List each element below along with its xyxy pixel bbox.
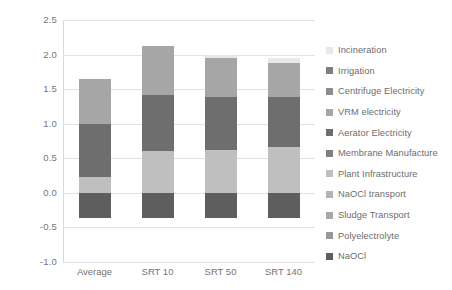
legend-swatch-icon [326,67,333,74]
y-tick-label: 0.0 [23,187,57,198]
stacked-bar[interactable] [142,20,174,262]
bar-group[interactable] [252,20,315,262]
legend-item[interactable]: VRM electricity [326,102,452,123]
legend-swatch-icon [326,212,333,219]
legend-swatch-icon [326,150,333,157]
legend-swatch-icon [326,170,333,177]
y-tick-label: -0.5 [23,221,57,232]
legend-item[interactable]: Plant Infrastructure [326,164,452,185]
legend-swatch-icon [326,109,333,116]
legend-item[interactable]: NaOCl [326,246,452,267]
legend-item[interactable]: Irrigation [326,61,452,82]
legend-label: Irrigation [338,66,375,76]
bar-group[interactable] [63,20,126,262]
x-tick-label: SRT 10 [142,266,174,277]
legend-swatch-icon [326,129,333,136]
legend-item[interactable]: Incineration [326,40,452,61]
stacked-bar[interactable] [205,20,237,262]
legend-label: Centrifuge Electricity [338,86,424,96]
bar-segment[interactable] [205,58,237,97]
legend-label: NaOCl transport [338,189,406,199]
legend-swatch-icon [326,232,333,239]
y-tick-label: 2.0 [23,49,57,60]
bar-series-container [63,20,315,262]
y-tick-label: 1.5 [23,83,57,94]
legend-swatch-icon [326,88,333,95]
legend-item[interactable]: Aerator Electricity [326,122,452,143]
legend-item[interactable]: Polyelectrolyte [326,225,452,246]
plot-area: -1.0-0.50.00.51.01.52.02.5 [63,20,315,262]
stacked-bar[interactable] [268,20,300,262]
bar-segment[interactable] [79,177,111,193]
climate-change-stacked-bar-chart: -1.0-0.50.00.51.01.52.02.5 CC [kg CO2 eq… [0,0,452,290]
legend-label: Membrane Manufacture [338,148,438,158]
x-tick-label: SRT 140 [265,266,302,277]
legend-label: NaOCl [338,251,366,261]
legend-swatch-icon [326,47,333,54]
legend-item[interactable]: Membrane Manufacture [326,143,452,164]
bar-group[interactable] [189,20,252,262]
bar-segment[interactable] [205,97,237,150]
x-tick-label: SRT 50 [205,266,237,277]
legend-label: Plant Infrastructure [338,169,418,179]
legend-item[interactable]: Sludge Transport [326,205,452,226]
y-tick-label: 1.0 [23,118,57,129]
bar-segment[interactable] [79,124,111,177]
stacked-bar[interactable] [79,20,111,262]
chart-legend: IncinerationIrrigationCentrifuge Electri… [326,40,452,267]
legend-item[interactable]: NaOCl transport [326,184,452,205]
bar-segment-negative[interactable] [142,193,174,219]
legend-label: Polyelectrolyte [338,231,399,241]
legend-label: Aerator Electricity [338,128,412,138]
legend-label: Sludge Transport [338,210,410,220]
bar-segment[interactable] [142,151,174,193]
bar-segment[interactable] [142,46,174,94]
legend-label: Incineration [338,45,387,55]
bar-segment[interactable] [268,63,300,98]
bar-segment[interactable] [205,150,237,193]
legend-swatch-icon [326,191,333,198]
y-tick-label: -1.0 [23,256,57,267]
x-axis-labels: AverageSRT 10SRT 50SRT 140 [63,266,315,282]
bar-segment[interactable] [268,97,300,147]
bar-segment[interactable] [205,55,237,58]
y-tick-label: 2.5 [23,14,57,25]
bar-segment[interactable] [268,58,300,63]
legend-item[interactable]: Centrifuge Electricity [326,81,452,102]
legend-label: VRM electricity [338,107,401,117]
legend-swatch-icon [326,253,333,260]
bar-segment-negative[interactable] [79,193,111,219]
bar-segment-negative[interactable] [268,193,300,219]
x-tick-label: Average [77,266,112,277]
bar-segment[interactable] [79,79,111,124]
bar-group[interactable] [126,20,189,262]
y-tick-label: 0.5 [23,152,57,163]
bar-segment[interactable] [268,147,300,193]
bar-segment-negative[interactable] [205,193,237,219]
bar-segment[interactable] [142,95,174,151]
gridline [63,262,315,263]
